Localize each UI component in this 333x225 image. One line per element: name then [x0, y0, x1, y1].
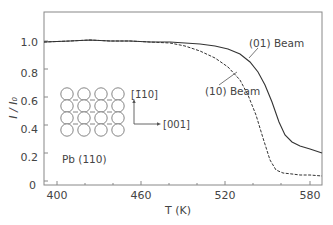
arrow-right-head-icon — [157, 122, 161, 125]
x-tick-label: 400 — [47, 189, 68, 202]
label-10-beam: (10) Beam — [205, 85, 260, 97]
direction-label-up: [1̄10] — [131, 89, 158, 100]
sample-label: Pb (110) — [62, 153, 107, 165]
y-tick-label: 0.8 — [21, 67, 39, 80]
y-tick-label: 0.4 — [21, 123, 39, 136]
direction-arrows — [134, 101, 158, 124]
x-tick-label: 520 — [215, 189, 236, 202]
y-axis — [44, 41, 48, 181]
x-tick-label: 460 — [131, 189, 152, 202]
y-tick-label: 1.0 — [21, 36, 39, 49]
leader-10-beam — [219, 72, 237, 85]
y-tick-label: 0.2 — [21, 151, 39, 164]
x-tick-label: 580 — [300, 189, 321, 202]
leader-01-beam — [249, 48, 258, 58]
y-tick-label: 0 — [29, 179, 36, 192]
direction-label-right: [001] — [163, 119, 190, 130]
x-axis — [57, 181, 310, 185]
x-axis-label: T (K) — [164, 204, 191, 217]
y-tick-label: 0.6 — [21, 95, 39, 108]
label-01-beam: (01) Beam — [249, 37, 304, 49]
y-axis-label: I / I₀ — [7, 97, 20, 119]
chart: 0 0.2 0.4 0.6 0.8 1.0 I / I₀ 400 460 520… — [0, 0, 333, 225]
